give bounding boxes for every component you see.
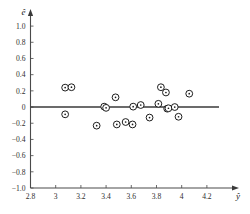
data-point-center [178,116,180,118]
y-axis-arrow-icon [28,9,33,16]
data-point-center [132,106,134,108]
y-tick-label: 0.8 [16,38,26,47]
data-point-center [96,125,98,127]
y-tick-label: 1.0 [16,22,26,31]
data-point-center [64,87,66,89]
data-point-center [116,124,118,126]
data-point-center [105,107,107,109]
x-tick-label: 2.8 [26,192,36,201]
data-point-center [140,104,142,106]
y-tick-label: 0.6 [16,54,26,63]
y-axis-title: ê [22,7,26,17]
y-tick-label: 0.2 [16,87,26,96]
data-point-center [165,92,167,94]
data-point-center [149,117,151,119]
y-tick-label: −0.6 [12,151,26,160]
x-axis-title: ŷ [235,191,240,201]
data-point-center [188,93,190,95]
data-point-center [71,86,73,88]
x-tick-label: 3.8 [152,192,162,201]
data-point-center [168,107,170,109]
y-tick-label-group: 1.00.80.60.40.20−0.2−0.4−0.6−0.8−1.0 [12,22,26,193]
x-tick-label: 4 [180,192,184,201]
y-tick-label: −0.2 [12,119,26,128]
data-point-center [125,121,127,123]
y-tick-label: −0.8 [12,168,26,177]
y-tick-label: −0.4 [12,135,26,144]
y-tick-label: −1.0 [12,184,26,193]
data-point-center [158,103,160,105]
x-tick-label: 3.2 [76,192,86,201]
x-axis-arrow-icon [232,185,239,190]
data-point-center [174,106,176,108]
data-point-center [160,86,162,88]
x-tick-label-group: 2.833.23.43.63.844.2 [26,192,212,201]
residual-plot: 1.00.80.60.40.20−0.2−0.4−0.6−0.8−1.0 2.8… [0,0,250,214]
y-tick-label: 0 [22,103,26,112]
data-point-center [64,113,66,115]
x-tick-label: 3.6 [127,192,137,201]
x-tick-label: 3.4 [101,192,111,201]
chart-canvas: 1.00.80.60.40.20−0.2−0.4−0.6−0.8−1.0 2.8… [0,0,250,214]
data-point-center [115,96,117,98]
data-point-center [132,124,134,126]
x-tick-label: 3 [54,192,58,201]
x-tick-label: 4.2 [202,192,212,201]
y-tick-label: 0.4 [16,70,26,79]
